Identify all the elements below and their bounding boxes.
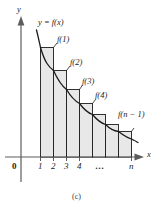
x-tick-label-ellipsis: … bbox=[95, 162, 105, 171]
curve-equation-label: y = f(x) bbox=[38, 18, 64, 27]
figure-caption: (c) bbox=[72, 193, 81, 201]
bar-f2 bbox=[54, 71, 67, 158]
bar-label-f1: f(1) bbox=[57, 35, 69, 44]
x-tick-label-4: 4 bbox=[77, 162, 82, 171]
y-axis-label: y bbox=[17, 5, 21, 14]
x-tick-label-3: 3 bbox=[64, 162, 69, 171]
figure-graphic bbox=[0, 0, 158, 215]
origin-label: 0 bbox=[12, 162, 17, 171]
x-tick-label-2: 2 bbox=[51, 162, 56, 171]
x-tick-label-1: 1 bbox=[38, 162, 43, 171]
bar-label-fn-1: f(n − 1) bbox=[118, 110, 145, 119]
bar-label-f4: f(4) bbox=[95, 91, 107, 100]
bar-label-f2: f(2) bbox=[70, 58, 82, 67]
x-axis-label: x bbox=[147, 150, 151, 159]
figure-container: y x y = f(x) f(1) f(2) f(3) f(4) f(n − 1… bbox=[0, 0, 158, 215]
bar-label-f3: f(3) bbox=[82, 77, 94, 86]
bar-f3 bbox=[67, 90, 80, 158]
x-tick-label-n: n bbox=[129, 162, 134, 171]
bar-series bbox=[41, 48, 132, 158]
bar-f4 bbox=[80, 104, 93, 158]
